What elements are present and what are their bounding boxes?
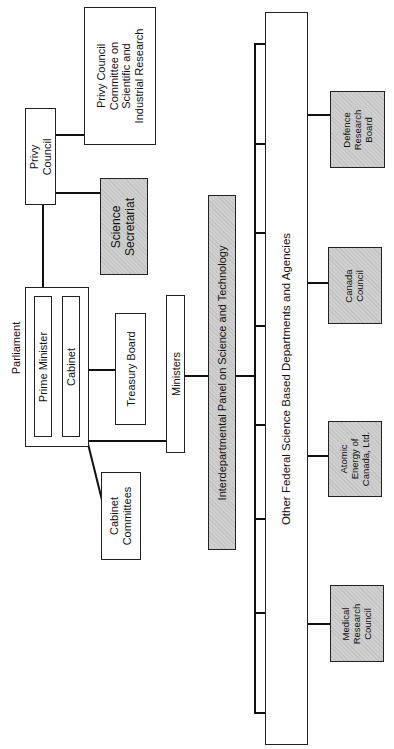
cabinet-committees-line2: Committees: [121, 487, 134, 546]
privy-committee-line1: Privy Council: [95, 29, 108, 124]
cabinet-box: Cabinet: [62, 296, 80, 437]
treasury-board-label: Treasury Board: [124, 331, 137, 406]
canada-council-box: Canada Council: [328, 247, 382, 324]
science-secretariat-line1: Science: [110, 197, 124, 255]
science-secretariat-line2: Secretariat: [124, 197, 138, 255]
cabinet-committees-box: Cabinet Committees: [101, 472, 141, 560]
privy-council-line1: Privy: [28, 138, 41, 175]
other-federal-label: Other Federal Science Based Departments …: [280, 232, 293, 524]
parliament-label: Parliament: [10, 318, 22, 378]
connector-parliament-ministers: [89, 440, 166, 442]
ministers-label: Ministers: [169, 352, 182, 396]
cabinet-committees-line1: Cabinet: [108, 487, 121, 546]
privy-council-box: Privy Council: [25, 108, 56, 205]
defence-research-board-box: Defence Research Board: [330, 91, 385, 168]
interdepartmental-panel-box: Interdepartmental Panel on Science and T…: [208, 195, 236, 550]
defence-line2: Research: [352, 109, 363, 150]
connector-parliament-treasury: [89, 369, 115, 371]
privy-committee-line2: Committee on: [107, 29, 120, 124]
connector-defence: [308, 114, 330, 116]
connector-ministers-panel: [185, 375, 208, 377]
atomic-energy-box: Atomic Energy of Canada, Ltd.: [328, 421, 382, 497]
connector-panel-bracket: [236, 375, 254, 377]
atomic-line3: Canada, Ltd.: [360, 432, 371, 486]
bracket-tick: [254, 232, 265, 234]
defence-line3: Board: [363, 109, 374, 150]
privy-committee-box: Privy Council Committee on Scientific an…: [84, 7, 156, 145]
prime-minister-box: Prime Minister: [34, 296, 52, 437]
bracket-tick: [254, 612, 265, 614]
connector-medical: [308, 623, 330, 625]
ministers-box: Ministers: [166, 295, 185, 453]
privy-council-line2: Council: [41, 138, 54, 175]
connector-atomic: [308, 455, 328, 457]
bracket-tick: [254, 43, 265, 45]
cabinet-label: Cabinet: [65, 348, 78, 386]
canada-council-line2: Council: [355, 269, 366, 302]
privy-committee-line4: Industrial Research: [133, 29, 146, 124]
connector-privy-committee: [56, 134, 84, 136]
privy-committee-line3: Scientific and: [120, 29, 133, 124]
medical-research-council-box: Medical Research Council: [330, 585, 384, 662]
bracket-tick: [254, 712, 265, 714]
connector-pm-privy: [42, 205, 44, 297]
bracket-tick: [254, 325, 265, 327]
interdepartmental-panel-label: Interdepartmental Panel on Science and T…: [216, 245, 229, 500]
science-secretariat-box: Science Secretariat: [100, 178, 148, 275]
connector-canada-council: [308, 282, 328, 284]
bracket-tick: [254, 518, 265, 520]
medical-line3: Council: [362, 603, 373, 644]
bracket-tick: [254, 424, 265, 426]
defence-line1: Defence: [341, 109, 352, 150]
treasury-board-box: Treasury Board: [115, 313, 146, 425]
connector-privy-secretariat: [56, 192, 100, 194]
prime-minister-label: Prime Minister: [37, 331, 50, 401]
bracket-tick: [254, 143, 265, 145]
other-federal-box: Other Federal Science Based Departments …: [265, 12, 308, 745]
